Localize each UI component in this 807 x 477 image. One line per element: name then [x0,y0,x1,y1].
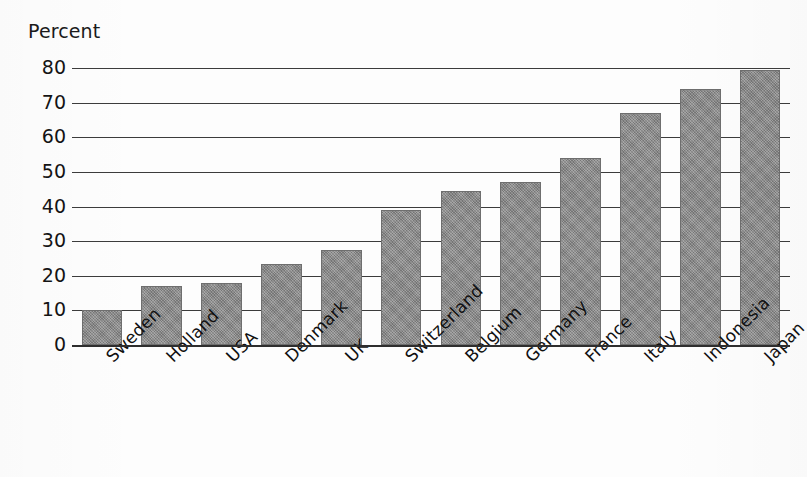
y-axis-tick-label: 40 [20,197,66,216]
y-axis-tick-label: 10 [20,300,66,319]
bar [620,113,661,345]
bar [381,210,422,345]
y-axis-tick-label: 30 [20,231,66,250]
plot-area: 01020304050607080 SwedenHollandUSADenmar… [0,0,807,477]
y-axis-tick-label: 80 [20,58,66,77]
y-axis-tick-label: 70 [20,93,66,112]
bar [680,89,721,345]
y-axis-tick-label: 60 [20,127,66,146]
bar [261,264,302,345]
y-axis-tick-label: 0 [20,335,66,354]
bar-chart: Percent 01020304050607080 SwedenHollandU… [0,0,807,477]
gridline [72,68,790,69]
y-axis-tick-label: 20 [20,266,66,285]
x-axis-line [72,345,790,347]
y-axis-tick-label: 50 [20,162,66,181]
